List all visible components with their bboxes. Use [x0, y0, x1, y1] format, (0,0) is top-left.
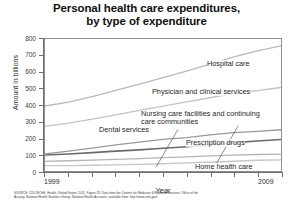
x-tick-mark-2008 — [258, 173, 259, 177]
series-label-dental-services: Dental services — [99, 126, 149, 134]
series-line-nursing-care-facilities-and-continuing-care-communities — [45, 139, 281, 155]
y-tick-mark-300 — [39, 122, 43, 123]
x-axis-label-end: 2009 — [258, 178, 274, 185]
chart-figure: Personal health care expenditures, by ty… — [0, 0, 293, 206]
chart-title-line-1: Personal health care expenditures, — [53, 2, 240, 14]
source-note-line-2: Actuary, National Health Statistics Grou… — [14, 196, 286, 200]
x-tick-mark-1999 — [44, 173, 45, 177]
y-tick-mark-400 — [39, 105, 43, 106]
x-tick-mark-2006 — [211, 173, 212, 177]
y-tick-label-500: 500 — [2, 85, 36, 92]
x-tick-mark-2009 — [282, 173, 283, 177]
series-line-hospital-care — [45, 46, 281, 106]
y-tick-mark-800 — [39, 38, 43, 39]
y-tick-label-800: 800 — [2, 35, 36, 42]
series-label-home-health-care: Home health care — [195, 163, 253, 171]
y-tick-mark-100 — [39, 155, 43, 156]
x-tick-mark-2007 — [234, 173, 235, 177]
plot-area: Hospital care Physician and clinical ser… — [44, 38, 282, 172]
y-tick-label-400: 400 — [2, 102, 36, 109]
x-tick-mark-2003 — [139, 173, 140, 177]
x-axis-label-start: 1999 — [44, 178, 60, 185]
y-tick-mark-600 — [39, 72, 43, 73]
x-tick-mark-2002 — [115, 173, 116, 177]
x-tick-mark-2000 — [68, 173, 69, 177]
y-axis-title: Amount in billions — [12, 35, 19, 131]
y-tick-label-200: 200 — [2, 135, 36, 142]
chart-title: Personal health care expenditures, by ty… — [0, 2, 293, 27]
source-note: SOURCE: CDC/NCHS, Health, United States,… — [14, 192, 286, 200]
y-tick-label-0: 0 — [2, 169, 36, 176]
y-tick-label-300: 300 — [2, 118, 36, 125]
y-tick-mark-500 — [39, 88, 43, 89]
y-tick-label-100: 100 — [2, 152, 36, 159]
y-tick-label-700: 700 — [2, 51, 36, 58]
x-tick-mark-2005 — [187, 173, 188, 177]
series-label-hospital-care: Hospital care — [207, 60, 250, 68]
series-label-physician-and-clinical-services: Physician and clinical services — [152, 88, 250, 96]
y-tick-label-600: 600 — [2, 68, 36, 75]
y-tick-mark-700 — [39, 55, 43, 56]
chart-title-line-2: by type of expenditure — [0, 15, 293, 28]
series-label-nursing-care-facilities: Nursing care facilities and continuing c… — [141, 110, 265, 126]
x-tick-mark-2004 — [163, 173, 164, 177]
x-tick-mark-2001 — [92, 173, 93, 177]
series-label-nursing-care-line-2: care communities — [141, 117, 198, 126]
y-tick-mark-200 — [39, 139, 43, 140]
series-label-prescription-drugs: Prescription drugs — [186, 139, 245, 147]
